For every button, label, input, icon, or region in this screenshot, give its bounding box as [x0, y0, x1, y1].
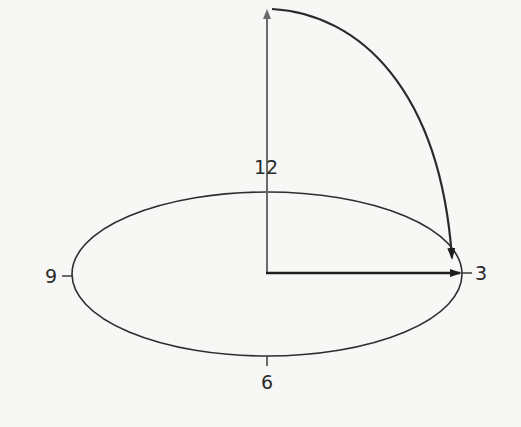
label-nine: 9 [45, 267, 57, 286]
label-twelve: 12 [254, 158, 278, 177]
rotation-arc-arrow [272, 9, 452, 258]
label-six: 6 [261, 373, 273, 392]
diagram-canvas [0, 0, 521, 427]
clock-rotation-diagram: 12 9 3 6 [0, 0, 521, 427]
label-three: 3 [475, 264, 487, 283]
